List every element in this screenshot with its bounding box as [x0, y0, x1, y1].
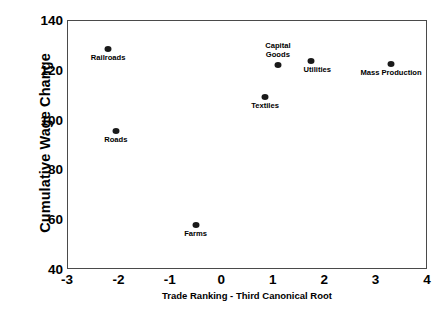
x-tick-label-2: 2: [304, 272, 344, 287]
y-tick-label-100: 100: [27, 112, 63, 127]
x-tick-label-4: 4: [407, 272, 443, 287]
y-tick-label-140: 140: [27, 13, 63, 28]
data-point-farms[interactable]: [192, 222, 199, 228]
data-label-farms: Farms: [184, 229, 207, 238]
data-label-mass-production: Mass Production: [360, 68, 421, 77]
data-label-roads: Roads: [104, 135, 127, 144]
data-label-capital-goods: Capital Goods: [265, 41, 290, 59]
scatter-chart: Cumulative Wage Change Trade Ranking - T…: [0, 0, 443, 317]
data-point-textiles[interactable]: [262, 94, 269, 100]
data-point-railroads[interactable]: [105, 46, 112, 52]
y-axis-tick-labels: 406080100120140: [0, 0, 443, 317]
data-point-capital-goods[interactable]: [274, 62, 281, 68]
x-tick-label-1: 1: [253, 272, 293, 287]
x-tick-label-neg2: -2: [98, 272, 138, 287]
y-tick-label-80: 80: [27, 162, 63, 177]
data-point-roads[interactable]: [112, 128, 119, 134]
data-point-mass-production[interactable]: [388, 61, 395, 67]
data-label-textiles: Textiles: [251, 101, 279, 110]
y-tick-label-120: 120: [27, 62, 63, 77]
x-tick-label-3: 3: [356, 272, 396, 287]
x-tick-label-neg1: -1: [150, 272, 190, 287]
data-label-railroads: Railroads: [91, 53, 126, 62]
y-tick-label-60: 60: [27, 212, 63, 227]
data-label-utilities: Utilities: [304, 65, 331, 74]
x-tick-label-0: 0: [201, 272, 241, 287]
data-point-utilities[interactable]: [308, 58, 315, 64]
x-tick-label-neg3: -3: [47, 272, 87, 287]
